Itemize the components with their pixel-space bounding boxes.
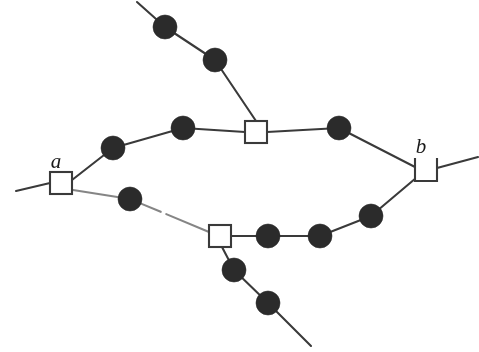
- circle-node-lower-branch-1[interactable]: [222, 258, 246, 282]
- edge-b-to-right-stub: [437, 157, 478, 168]
- square-node-a[interactable]: [50, 172, 72, 194]
- node-label-a: a: [51, 149, 62, 173]
- edge-a-to-upper-path: [72, 128, 245, 180]
- square-node-bottom[interactable]: [209, 225, 231, 247]
- square-node-b-fill: [415, 159, 437, 181]
- edges-layer: [16, 2, 478, 346]
- graph-canvas: ab: [0, 0, 479, 352]
- circle-nodes-layer: [101, 15, 383, 315]
- circle-node-lower-path-2[interactable]: [256, 224, 280, 248]
- graph-diagram: ab: [0, 0, 479, 352]
- square-node-top[interactable]: [245, 121, 267, 143]
- circle-node-upper-branch-1[interactable]: [153, 15, 177, 39]
- circle-node-upper-path-2[interactable]: [171, 116, 195, 140]
- edge-left-stub-to-a: [16, 183, 50, 191]
- circle-node-upper-branch-2[interactable]: [203, 48, 227, 72]
- circle-node-upper-path-1[interactable]: [101, 136, 125, 160]
- node-label-b: b: [416, 134, 427, 158]
- circle-node-lower-path-1[interactable]: [118, 187, 142, 211]
- circle-node-lower-path-3[interactable]: [308, 224, 332, 248]
- circle-node-lower-branch-2[interactable]: [256, 291, 280, 315]
- circle-node-lower-path-4[interactable]: [359, 204, 383, 228]
- circle-node-upper-path-3[interactable]: [327, 116, 351, 140]
- edge-upper-branch-in: [137, 2, 256, 121]
